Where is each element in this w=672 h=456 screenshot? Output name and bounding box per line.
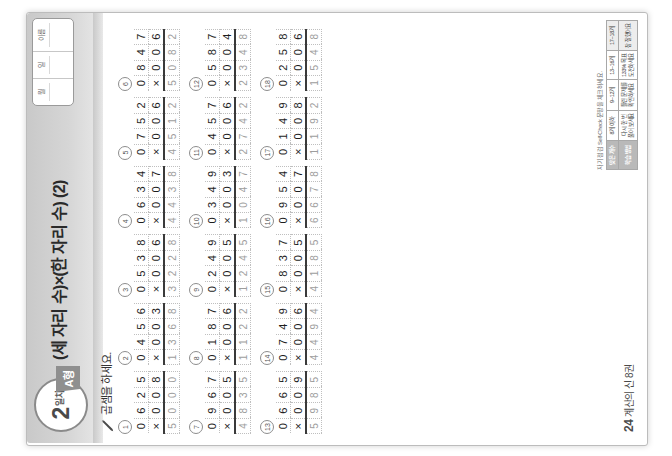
answer-digit-3[interactable]: 0 — [164, 388, 180, 404]
answer-digit-2[interactable]: 7 — [235, 129, 251, 145]
answer-row[interactable]: 2742 — [235, 98, 251, 160]
problem-1[interactable]: 10625×0085000 — [118, 365, 180, 434]
answer-digit-4[interactable]: 2 — [164, 29, 180, 45]
answer-digit-4[interactable]: 8 — [164, 303, 180, 319]
problem-11[interactable]: 110457×0062742 — [189, 91, 251, 160]
answer-digit-4[interactable]: 4 — [306, 303, 322, 319]
answer-row[interactable]: 4494 — [306, 303, 322, 365]
vertical-multiplication-table[interactable]: 0954×0076678 — [276, 166, 322, 229]
answer-row[interactable]: 5000 — [164, 372, 180, 434]
vertical-multiplication-table[interactable]: 0967×0054835 — [205, 372, 251, 435]
answer-digit-2[interactable]: 0 — [164, 60, 180, 76]
vertical-multiplication-table[interactable]: 0752×0064512 — [134, 97, 180, 160]
name-write-line[interactable] — [49, 23, 69, 47]
answer-digit-3[interactable]: 4 — [235, 250, 251, 266]
answer-digit-2[interactable]: 9 — [306, 403, 322, 419]
answer-digit-3[interactable]: 4 — [235, 45, 251, 61]
problem-3[interactable]: 30538×0063228 — [118, 228, 180, 297]
answer-digit-3[interactable]: 8 — [164, 45, 180, 61]
answer-digit-4[interactable]: 8 — [164, 235, 180, 251]
vertical-multiplication-table[interactable]: 0258×0061548 — [276, 29, 322, 92]
answer-digit-2[interactable]: 4 — [164, 197, 180, 213]
day-write-line[interactable] — [49, 56, 69, 74]
answer-digit-1[interactable]: 5 — [306, 419, 322, 434]
vertical-multiplication-table[interactable]: 0749×0064494 — [276, 303, 322, 366]
answer-digit-4[interactable]: 7 — [235, 166, 251, 182]
problem-6[interactable]: 60847×0065082 — [118, 22, 180, 91]
answer-digit-3[interactable]: 4 — [306, 45, 322, 61]
answer-digit-2[interactable]: 2 — [164, 266, 180, 282]
problem-8[interactable]: 80187×0061122 — [189, 297, 251, 366]
problem-9[interactable]: 90249×0051245 — [189, 228, 251, 297]
answer-digit-2[interactable]: 1 — [306, 266, 322, 282]
answer-row[interactable]: 1368 — [164, 303, 180, 365]
answer-digit-3[interactable]: 3 — [164, 182, 180, 198]
answer-digit-1[interactable]: 1 — [306, 144, 322, 159]
answer-digit-2[interactable]: 8 — [235, 403, 251, 419]
vertical-multiplication-table[interactable]: 0847×0065082 — [134, 29, 180, 92]
problem-13[interactable]: 130665×0095985 — [260, 365, 322, 434]
answer-row[interactable]: 5985 — [306, 372, 322, 434]
answer-row[interactable]: 1047 — [235, 166, 251, 228]
vertical-multiplication-table[interactable]: 0587×0042348 — [205, 29, 251, 92]
answer-digit-1[interactable]: 4 — [164, 144, 180, 159]
answer-digit-4[interactable]: 0 — [164, 372, 180, 388]
problem-12[interactable]: 120587×0042348 — [189, 22, 251, 91]
answer-digit-4[interactable]: 2 — [235, 303, 251, 319]
answer-digit-4[interactable]: 8 — [164, 166, 180, 182]
problem-5[interactable]: 50752×0064512 — [118, 91, 180, 160]
answer-digit-1[interactable]: 2 — [235, 76, 251, 91]
answer-digit-3[interactable]: 1 — [164, 113, 180, 129]
answer-digit-1[interactable]: 5 — [164, 419, 180, 434]
answer-digit-3[interactable]: 8 — [306, 388, 322, 404]
answer-row[interactable]: 5082 — [164, 29, 180, 91]
vertical-multiplication-table[interactable]: 0665×0095985 — [276, 372, 322, 435]
problem-7[interactable]: 70967×0054835 — [189, 365, 251, 434]
answer-digit-1[interactable]: 4 — [306, 281, 322, 296]
answer-digit-1[interactable]: 2 — [235, 144, 251, 159]
answer-digit-2[interactable]: 0 — [164, 403, 180, 419]
vertical-multiplication-table[interactable]: 0149×0081192 — [276, 97, 322, 160]
answer-digit-4[interactable]: 8 — [306, 166, 322, 182]
vertical-multiplication-table[interactable]: 0634×0074438 — [134, 166, 180, 229]
answer-row[interactable]: 1548 — [306, 29, 322, 91]
vertical-multiplication-table[interactable]: 0837×0054185 — [276, 234, 322, 297]
answer-digit-3[interactable]: 9 — [306, 319, 322, 335]
answer-digit-4[interactable]: 8 — [306, 29, 322, 45]
name-field[interactable]: 이름 — [33, 19, 73, 51]
answer-digit-1[interactable]: 5 — [164, 76, 180, 91]
answer-digit-1[interactable]: 1 — [164, 350, 180, 365]
problem-15[interactable]: 150837×0054185 — [260, 228, 322, 297]
answer-digit-2[interactable]: 1 — [306, 129, 322, 145]
answer-row[interactable]: 4512 — [164, 98, 180, 160]
problem-4[interactable]: 40634×0074438 — [118, 160, 180, 229]
answer-row[interactable]: 1245 — [235, 235, 251, 297]
answer-digit-4[interactable]: 5 — [306, 235, 322, 251]
answer-digit-3[interactable]: 2 — [164, 250, 180, 266]
problem-2[interactable]: 20456×0031368 — [118, 297, 180, 366]
answer-digit-3[interactable]: 4 — [235, 113, 251, 129]
answer-digit-1[interactable]: 1 — [306, 76, 322, 91]
answer-row[interactable]: 4835 — [235, 372, 251, 434]
answer-digit-3[interactable]: 6 — [164, 319, 180, 335]
answer-digit-4[interactable]: 5 — [306, 372, 322, 388]
answer-row[interactable]: 6678 — [306, 166, 322, 228]
vertical-multiplication-table[interactable]: 0538×0063228 — [134, 234, 180, 297]
answer-digit-1[interactable]: 1 — [235, 213, 251, 228]
answer-digit-4[interactable]: 2 — [164, 98, 180, 114]
answer-digit-1[interactable]: 3 — [164, 281, 180, 296]
vertical-multiplication-table[interactable]: 0625×0085000 — [134, 372, 180, 435]
problem-10[interactable]: 100349×0031047 — [189, 160, 251, 229]
answer-digit-2[interactable]: 5 — [164, 129, 180, 145]
month-write-line[interactable] — [49, 83, 69, 101]
answer-digit-3[interactable]: 3 — [235, 388, 251, 404]
answer-digit-4[interactable]: 5 — [235, 372, 251, 388]
answer-digit-4[interactable]: 2 — [235, 98, 251, 114]
answer-digit-3[interactable]: 9 — [306, 113, 322, 129]
answer-row[interactable]: 2348 — [235, 29, 251, 91]
answer-digit-2[interactable]: 3 — [164, 334, 180, 350]
date-name-box[interactable]: 월 일 이름 — [32, 18, 74, 106]
problem-17[interactable]: 170149×0081192 — [260, 91, 322, 160]
answer-digit-2[interactable]: 1 — [235, 334, 251, 350]
day-field[interactable]: 일 — [33, 51, 73, 78]
